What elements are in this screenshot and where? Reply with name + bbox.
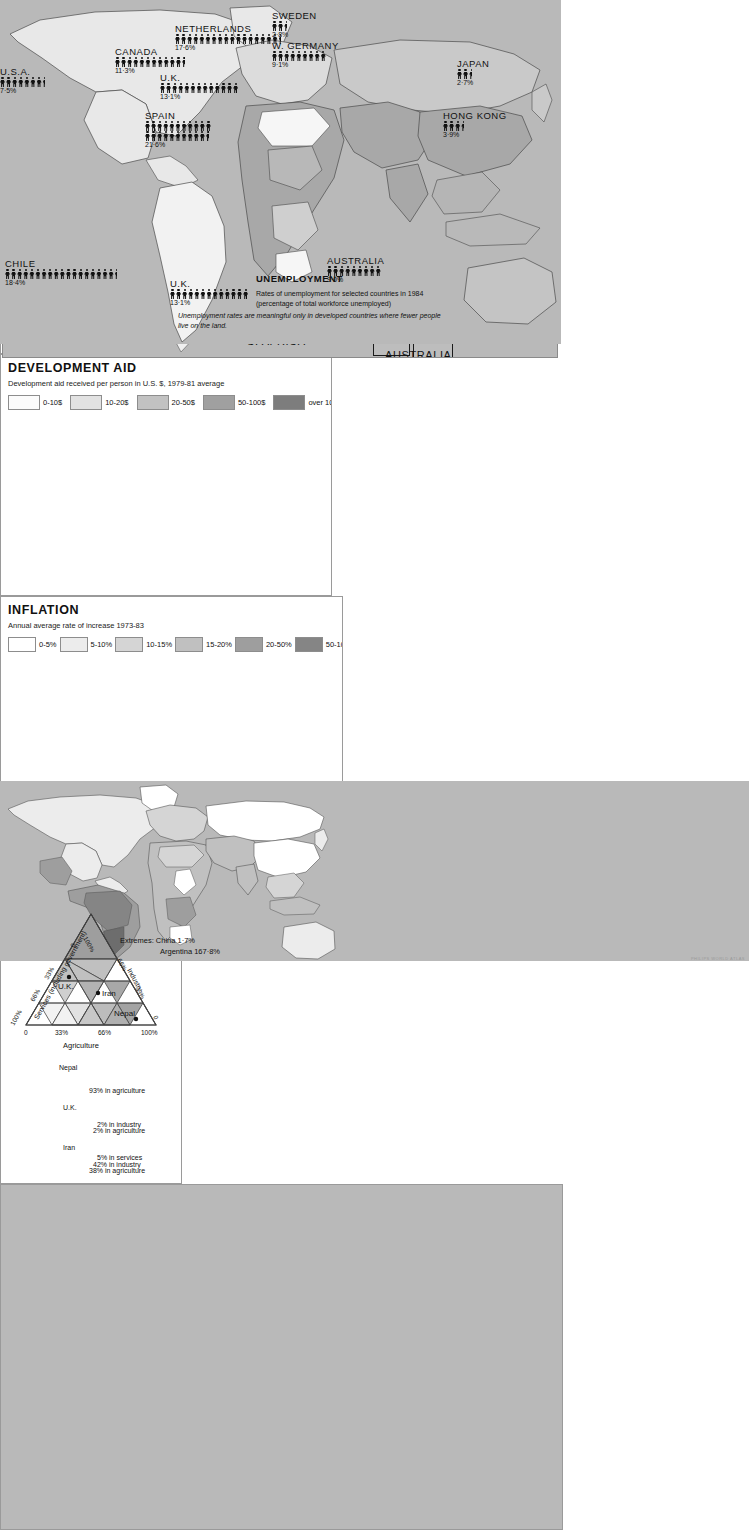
legend-item: 20-50$ [137,395,195,410]
trade-label-australia: AUSTRALIA [385,349,452,358]
legend-label: 0-5% [39,640,57,649]
example-line: 2% in agriculture [93,1125,145,1136]
legend-item: 0-5% [8,637,57,652]
employment-example-name-uk: U.K. [63,1103,77,1114]
ternary-point-iran [96,991,100,995]
inflation-world-map [0,781,341,838]
employment-example-lines-iran: 38% in agriculture 33% in industry 29% i… [89,1143,145,1184]
employment-ternary-diagram: U.K. Iran Nepal 0 33% 66% 100% Agricultu… [1,902,181,1052]
legend-label: 20-50$ [172,398,195,407]
legend-swatch [115,637,143,652]
legend-label: 0-10$ [43,398,62,407]
ternary-tick-bottom-1: 33% [55,1029,68,1036]
legend-swatch [295,637,323,652]
legend-label: 10-15% [146,640,172,649]
legend-item: 0-10$ [8,395,62,410]
ternary-axis-bottom: Agriculture [63,1041,99,1050]
development-aid-panel: DEVELOPMENT AID Development aid received… [0,354,332,596]
legend-swatch [70,395,102,410]
ternary-tick-bottom-2: 66% [98,1029,111,1036]
ternary-tick-left-100: 100% [9,1008,23,1026]
example-line: 93% in agriculture [89,1085,145,1096]
legend-label: 10-20$ [105,398,128,407]
devaid-subtitle: Development aid received per person in U… [8,379,331,388]
ternary-tick-bottom-3: 100% [141,1029,158,1036]
inflation-map: Extremes: China 1·7% Argentina 167·8% [0,781,343,838]
legend-label: 5-10% [91,640,113,649]
unemployment-panel: U.S.A. 7·5% CANADA 11·3% NETHERLANDS 17·… [0,1184,563,1530]
employment-example-name-iran: Iran [63,1143,75,1154]
ternary-tick-left-66: 66% [29,988,42,1003]
legend-item: 5-10% [60,637,113,652]
example-line: 38% in agriculture [89,1165,145,1176]
legend-item: 50-100$ [203,395,266,410]
devaid-legend: 0-10$ 10-20$ 20-50$ 50-100$ over 100$ [8,395,331,410]
legend-label: 50-100$ [238,398,266,407]
legend-item: over 100$ [273,395,332,410]
legend-item: 10-15% [115,637,172,652]
ternary-label-iran: Iran [102,989,116,998]
inflation-panel: INFLATION Annual average rate of increas… [0,596,343,838]
legend-swatch [8,637,36,652]
ternary-label-uk: U.K. [58,982,74,991]
legend-swatch [8,395,40,410]
legend-item: 50-100% [295,637,343,652]
ternary-label-nepal: Nepal [114,1009,135,1018]
legend-item: 20-50% [235,637,292,652]
ternary-point-uk [67,975,71,979]
legend-swatch [203,395,235,410]
legend-item: 15-20% [175,637,232,652]
inflation-legend: 0-5% 5-10% 10-15% 15-20% 20-50% 50-100% … [8,637,339,653]
ternary-tick-bottom-0: 0 [24,1029,28,1036]
employment-example-name-nepal: Nepal [59,1063,77,1074]
inflation-subtitle: Annual average rate of increase 1973-83 [8,621,342,630]
legend-swatch [60,637,88,652]
legend-swatch [175,637,203,652]
legend-item: 10-20$ [70,395,128,410]
devaid-title: DEVELOPMENT AID [8,361,331,375]
legend-label: 15-20% [206,640,232,649]
ternary-svg: U.K. Iran Nepal 0 33% 66% 100% Agricultu… [1,902,181,1057]
legend-label: 50-100% [326,640,343,649]
legend-label: 20-50% [266,640,292,649]
inflation-title: INFLATION [8,603,342,617]
legend-label: over 100$ [308,398,332,407]
legend-swatch [235,637,263,652]
legend-swatch [273,395,305,410]
legend-swatch [137,395,169,410]
